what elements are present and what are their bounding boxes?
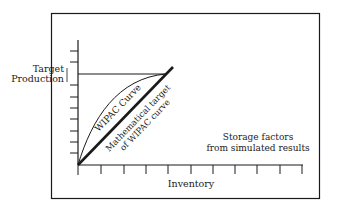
frame: [52, 14, 320, 199]
note-line1: Storage factors: [223, 132, 294, 142]
x-axis-label: Inventory: [168, 178, 215, 189]
wipac-diagram: Target Production Inventory WIPAC Curve …: [0, 0, 337, 210]
y-axis-label-line2: Production: [11, 73, 64, 84]
x-ticks: [78, 165, 302, 175]
note-line2: from simulated results: [206, 143, 310, 153]
y-ticks: [70, 51, 78, 153]
